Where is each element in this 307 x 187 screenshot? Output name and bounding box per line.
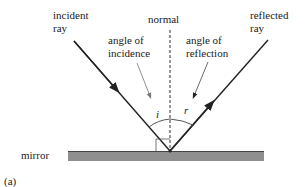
angle-arc-i [149, 119, 170, 127]
angle-of-reflection-label: angle of reflection [186, 34, 228, 60]
angle-of-incidence-label: angle of incidence [108, 34, 150, 60]
incidence-pointer [137, 63, 150, 96]
normal-label: normal [148, 13, 179, 26]
angle-r-label: r [184, 104, 188, 117]
mirror [68, 151, 264, 161]
reflected-ray-label: reflected ray [250, 9, 288, 35]
reflection-pointer [194, 62, 208, 96]
incident-ray-label: incident ray [53, 9, 88, 35]
angle-i-label: i [156, 108, 159, 121]
mirror-label: mirror [21, 149, 49, 162]
panel-label: (a) [4, 175, 16, 187]
angle-arc-r [170, 119, 193, 125]
